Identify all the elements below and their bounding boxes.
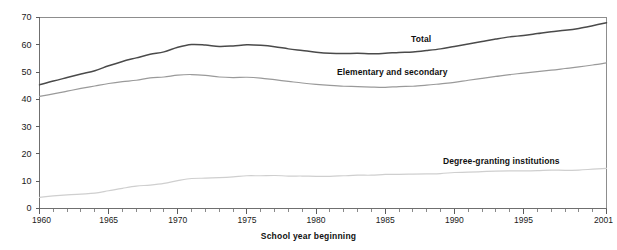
x-tick-label-1975: 1975 [237,215,256,225]
y-tick-label-40: 40 [21,94,31,104]
x-tick-label-1960: 1960 [32,215,51,225]
series-line-total [40,23,607,85]
series-line-degree-granting-institutions [40,168,607,197]
plot-frame [40,18,607,209]
x-axis-title: School year beginning [0,231,617,241]
x-tick-label-1990: 1990 [445,215,464,225]
chart-container: 010203040506070 196019651970197519801985… [0,0,617,250]
y-tick-label-10: 10 [21,176,31,186]
series-label-degree-granting-institutions: Degree-granting institutions [441,156,562,166]
x-tick-label-1980: 1980 [307,215,326,225]
y-axis-ticks [36,18,40,209]
y-tick-label-70: 70 [21,12,31,22]
x-tick-label-1995: 1995 [514,215,533,225]
x-tick-label-1965: 1965 [99,215,118,225]
line-chart-canvas: 010203040506070 196019651970197519801985… [0,0,617,250]
x-tick-label-1985: 1985 [376,215,395,225]
x-axis-tick-labels: 196019651970197519801985199019952001 [32,215,613,225]
series-label-total: Total [409,34,433,44]
y-tick-label-0: 0 [26,203,31,213]
y-tick-label-30: 30 [21,122,31,132]
y-tick-label-60: 60 [21,40,31,50]
x-axis-ticks [40,209,607,214]
x-tick-label-1970: 1970 [168,215,187,225]
series-line-elementary-and-secondary [40,63,607,97]
y-axis-tick-labels: 010203040506070 [21,12,31,213]
series-label-elementary-and-secondary: Elementary and secondary [335,67,450,77]
y-tick-label-50: 50 [21,67,31,77]
x-tick-label-2001: 2001 [594,215,613,225]
y-tick-label-20: 20 [21,149,31,159]
